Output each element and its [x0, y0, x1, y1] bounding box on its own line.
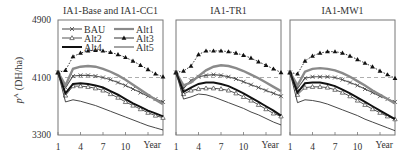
filled-triangle-marker-icon — [63, 68, 68, 72]
filled-triangle-marker-icon — [161, 74, 166, 78]
filled-triangle-marker-icon — [211, 48, 216, 52]
y-axis-title: pA(DH/ha) — [12, 57, 25, 104]
x-tick-label: 10 — [121, 142, 131, 152]
x-axis-title: Year — [143, 140, 161, 150]
figure: pA(DH/ha) 4900 4100 3300 IA1-Base and IA… — [0, 0, 410, 161]
filled-triangle-marker-icon — [385, 72, 390, 76]
filled-triangle-marker-icon — [226, 49, 231, 53]
legend-label: Alt4 — [84, 42, 102, 53]
x-tick-label: 4 — [78, 142, 83, 152]
legend-item-alt4: Alt4 — [62, 42, 102, 53]
legend-item-alt5: Alt5 — [114, 42, 154, 53]
series-alt3 — [174, 48, 284, 74]
x-tick-label: 10 — [239, 142, 249, 152]
x-axis-title: Year — [375, 140, 393, 150]
filled-triangle-marker-icon — [196, 52, 201, 56]
y-tick-3300: 3300 — [32, 130, 51, 140]
series-line — [290, 68, 395, 103]
panel-title: IA1-MW1 — [321, 5, 363, 16]
legend-label: Alt5 — [136, 42, 154, 53]
filled-triangle-marker-icon — [348, 53, 353, 57]
y-tick-4900: 4900 — [32, 15, 51, 25]
x-tick-label: 7 — [101, 142, 106, 152]
filled-triangle-marker-icon — [153, 71, 158, 75]
filled-triangle-marker-icon — [355, 57, 360, 61]
filled-triangle-marker-icon — [116, 52, 121, 56]
filled-triangle-marker-icon — [318, 51, 323, 55]
panel-title: IA1-Base and IA1-CC1 — [63, 5, 158, 16]
svg-text:pA(DH/ha): pA(DH/ha) — [12, 57, 25, 104]
filled-triangle-marker-icon — [279, 70, 284, 74]
series-line — [176, 51, 281, 73]
series-alt5 — [58, 72, 163, 130]
filled-triangle-marker-icon — [393, 76, 398, 80]
panel-title: IA1-TR1 — [210, 5, 247, 16]
x-tick-label: 1 — [174, 142, 179, 152]
x-tick-label: 10 — [353, 142, 363, 152]
series-line — [290, 72, 395, 130]
filled-triangle-marker-icon — [295, 71, 300, 75]
x-marker-icon — [131, 87, 135, 91]
filled-triangle-marker-icon — [181, 69, 186, 73]
x-tick-label: 4 — [196, 142, 201, 152]
x-axis-title: Year — [261, 140, 279, 150]
legend: BAUAlt1Alt2Alt3Alt4Alt5 — [62, 24, 154, 53]
x-tick-label: 1 — [56, 142, 61, 152]
series-bau — [174, 70, 283, 98]
series-line — [176, 72, 281, 96]
filled-triangle-marker-icon — [241, 53, 246, 57]
panel-ia1-tr1: IA1-TR114710Year — [174, 5, 284, 152]
panel-ia1-mw1: IA1-MW114710Year — [288, 5, 398, 152]
filled-triangle-marker-icon — [249, 56, 254, 60]
series-alt1 — [290, 68, 395, 103]
x-tick-label: 7 — [333, 142, 338, 152]
panel-ia1-base-and-ia1-cc1: IA1-Base and IA1-CC114710YearBAUAlt1Alt2… — [56, 5, 166, 152]
series-line — [58, 72, 163, 130]
x-tick-label: 4 — [310, 142, 315, 152]
filled-triangle-marker-icon — [333, 49, 338, 53]
filled-triangle-marker-icon — [271, 66, 276, 70]
series-alt5 — [290, 72, 395, 130]
filled-triangle-marker-icon — [303, 58, 308, 62]
x-tick-label: 7 — [219, 142, 224, 152]
x-tick-label: 1 — [288, 142, 293, 152]
y-tick-4100: 4100 — [32, 73, 51, 83]
